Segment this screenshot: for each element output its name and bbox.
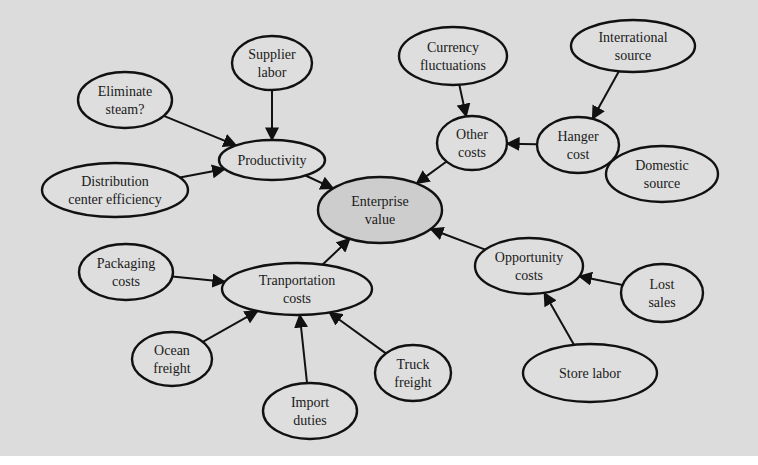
node-international-source: Interrationalsource [571,20,695,72]
node-label: costs [283,291,311,306]
node-import-duties: Importduties [263,383,357,439]
arrow-international-source-to-hanger-cost [593,71,619,118]
node-ellipse [79,244,173,300]
node-ellipse [621,264,703,322]
node-store-labor: Store labor [523,344,657,402]
node-ellipse [222,263,372,315]
node-label: Interrational [598,30,667,45]
node-label: source [615,48,652,63]
node-label: Store labor [559,366,621,381]
diagram-canvas: EnterprisevalueProductivitySupplierlabor… [0,0,758,456]
node-other-costs: Othercosts [437,116,507,170]
node-truck-freight: Truckfreight [375,345,451,401]
node-label: costs [112,274,140,289]
node-label: Distribution [81,174,149,189]
arrow-eliminate-steam-to-productivity [164,116,236,145]
node-hanger-cost: Hangercost [537,117,619,173]
node-label: Truck [397,357,430,372]
node-label: value [365,212,395,227]
node-ocean-freight: Oceanfreight [132,332,212,386]
node-label: Packaging [97,256,155,271]
node-label: Enterprise [351,194,409,209]
node-ellipse [571,20,695,72]
arrow-productivity-to-enterprise-value [305,176,333,189]
node-packaging-costs: Packagingcosts [79,244,173,300]
node-ellipse [132,332,212,386]
arrow-opportunity-costs-to-enterprise-value [431,229,486,250]
arrow-currency-fluctuations-to-other-costs [459,85,466,117]
arrow-transportation-costs-to-enterprise-value [323,239,350,265]
arrow-other-costs-to-enterprise-value [417,162,447,184]
node-ellipse [263,383,357,439]
arrow-import-duties-to-transportation-costs [300,315,307,383]
node-label: fluctuations [420,58,486,73]
node-lost-sales: Lostsales [621,264,703,322]
node-label: Import [291,395,329,410]
node-label: Productivity [237,153,306,168]
node-label: cost [567,147,590,162]
arrow-hanger-cost-to-other-costs [507,144,537,145]
node-label: center efficiency [68,192,161,207]
node-label: costs [458,145,486,160]
node-label: Supplier [248,47,296,62]
driver-tree-diagram: EnterprisevalueProductivitySupplierlabor… [0,0,758,456]
node-ellipse [232,36,312,90]
node-label: Other [456,127,488,142]
nodes-layer: EnterprisevalueProductivitySupplierlabor… [42,20,718,439]
node-productivity: Productivity [219,140,325,180]
node-enterprise-value: Enterprisevalue [318,177,442,243]
node-distribution-center-efficiency: Distributioncenter efficiency [42,163,188,217]
node-label: costs [515,268,543,283]
node-supplier-labor: Supplierlabor [232,36,312,90]
node-ellipse [42,163,188,217]
arrow-packaging-costs-to-transportation-costs [172,277,225,282]
arrow-lost-sales-to-opportunity-costs [579,276,622,285]
node-ellipse [78,72,172,128]
node-ellipse [375,345,451,401]
node-currency-fluctuations: Currencyfluctuations [399,27,507,85]
node-ellipse [318,177,442,243]
node-transportation-costs: Tranportationcosts [222,263,372,315]
node-label: Eliminate [98,84,152,99]
node-label: Currency [427,40,479,55]
node-ellipse [399,27,507,85]
node-eliminate-steam: Eliminatesteam? [78,72,172,128]
arrow-distribution-center-efficiency-to-productivity [180,169,225,178]
node-label: freight [153,361,190,376]
node-label: Opportunity [495,250,563,265]
arrow-ocean-freight-to-transportation-costs [203,311,258,342]
node-label: labor [258,65,287,80]
node-ellipse [437,116,507,170]
node-domestic-source: Domesticsource [606,146,718,202]
node-label: Hanger [557,129,599,144]
node-label: source [644,176,681,191]
node-ellipse [537,117,619,173]
node-label: sales [648,295,675,310]
node-label: duties [293,413,326,428]
node-ellipse [475,238,583,294]
node-label: Domestic [635,158,689,173]
node-label: Lost [650,277,675,292]
node-label: Ocean [154,343,190,358]
node-ellipse [606,146,718,202]
node-label: steam? [106,102,145,117]
node-label: freight [394,375,431,390]
arrow-store-labor-to-opportunity-costs [544,293,574,345]
arrow-truck-freight-to-transportation-costs [329,312,386,353]
node-label: Tranportation [259,273,335,288]
node-opportunity-costs: Opportunitycosts [475,238,583,294]
